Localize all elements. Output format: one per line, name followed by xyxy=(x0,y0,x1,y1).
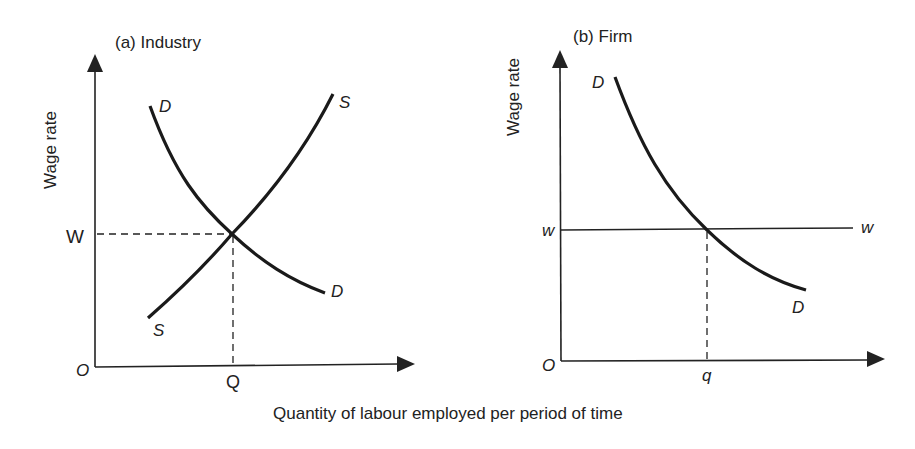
supply-label-bottom-industry: S xyxy=(153,321,165,340)
origin-label-firm: O xyxy=(542,356,555,375)
x-axis-arrow-icon xyxy=(867,351,885,367)
labour-market-diagram: (a) Industry Wage rate D S D S W O Q (b)… xyxy=(0,0,915,449)
panel-title-industry: (a) Industry xyxy=(115,33,201,52)
wage-label-left-firm: w xyxy=(542,221,556,240)
panel-title-firm: (b) Firm xyxy=(573,27,632,46)
supply-label-top-industry: S xyxy=(339,93,351,112)
demand-label-bottom-firm: D xyxy=(792,298,804,317)
demand-label-top-firm: D xyxy=(592,73,604,92)
y-axis-arrow-icon xyxy=(552,50,568,68)
y-axis-arrow-icon xyxy=(87,54,103,72)
panel-firm: (b) Firm Wage rate D D w w O q xyxy=(504,27,885,385)
x-axis-firm xyxy=(561,360,868,361)
demand-curve-firm xyxy=(615,77,806,290)
x-axis-caption: Quantity of labour employed per period o… xyxy=(273,404,623,423)
y-axis-label-firm: Wage rate xyxy=(504,58,523,136)
equilibrium-wage-label: W xyxy=(66,226,84,247)
y-axis-label-industry: Wage rate xyxy=(41,111,60,189)
quantity-label-firm: q xyxy=(702,366,712,385)
x-axis-arrow-icon xyxy=(397,356,415,372)
panel-industry: (a) Industry Wage rate D S D S W O Q xyxy=(41,33,415,392)
y-axis-firm xyxy=(560,68,561,361)
x-axis-industry xyxy=(95,364,398,367)
demand-label-top-industry: D xyxy=(159,97,171,116)
origin-label-industry: O xyxy=(76,361,89,380)
wage-label-right-firm: w xyxy=(861,218,875,237)
equilibrium-quantity-label: Q xyxy=(226,372,240,392)
demand-curve-industry xyxy=(150,106,325,293)
demand-label-bottom-industry: D xyxy=(331,282,343,301)
